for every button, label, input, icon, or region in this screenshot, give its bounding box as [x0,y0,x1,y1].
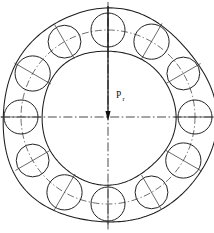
ball-9 [15,144,49,177]
ball-axis-3 [166,64,200,84]
ball-5 [165,143,202,178]
ball-7 [91,184,125,225]
inner-ring-outline [42,51,176,185]
load-label: P [116,90,121,100]
ball-axis-2 [141,23,162,60]
bearing-svg: P r [0,0,214,233]
ball-8 [47,174,82,211]
ball-axis-6 [142,175,162,209]
ball-axis-11 [14,63,51,84]
load-arrow [105,6,110,121]
ball-6 [135,175,168,209]
ball-10 [1,100,42,134]
load-label-subscript: r [122,95,125,102]
ball-axis-8 [54,174,75,211]
load-arrow-head [105,111,110,121]
ball-axis-5 [165,150,202,171]
ball-axis-12 [55,24,75,58]
load-label-group: P r [116,90,125,102]
ball-3 [166,57,200,90]
inner-ring [42,51,176,185]
ball-12 [48,24,81,58]
ball-11 [14,56,51,91]
bearing-diagram: P r [0,0,214,233]
ball-axis-9 [15,151,49,171]
ball-2 [134,23,169,60]
